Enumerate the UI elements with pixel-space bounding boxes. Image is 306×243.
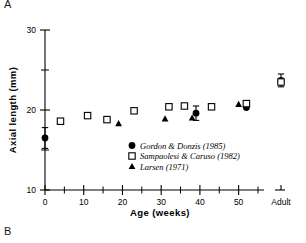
y-axis: 102030 Axial length (mm) [7,25,50,195]
data-point-1-6 [208,104,214,110]
x-tick-label-20: 20 [118,197,128,207]
legend-marker-0 [129,142,136,149]
x-tick-label-50: 50 [234,197,244,207]
y-axis-tick-labels: 102030 [27,25,37,195]
legend-marker-2 [129,163,136,169]
data-point-1-5 [181,103,187,109]
series-1 [57,79,284,125]
chart-svg: 102030 Axial length (mm) 01020304050Adul… [0,0,306,243]
data-point-1-7 [243,100,249,106]
x-tick-label-adult: Adult [271,197,291,207]
data-point-1-1 [84,112,90,118]
data-point-0-0 [42,135,49,142]
data-point-1-4 [166,104,172,110]
x-tick-label-10: 10 [79,197,89,207]
x-axis-tick-labels: 01020304050Adult [43,197,292,207]
legend-label-2: Larsen (1971) [139,162,189,172]
x-tick-label-30: 30 [156,197,166,207]
series-0 [42,74,285,148]
y-tick-label-10: 10 [27,185,37,195]
x-axis-title: Age (weeks) [130,207,190,218]
data-point-2-3 [235,101,242,107]
data-point-2-1 [162,115,169,121]
scatter-chart: 102030 Axial length (mm) 01020304050Adul… [0,0,306,243]
y-tick-label-20: 20 [27,105,37,115]
data-point-1-2 [104,116,110,122]
legend-item-0: Gordon & Donzis (1985) [129,141,226,151]
legend-item-2: Larsen (1971) [129,162,189,172]
data-point-1-8 [278,79,284,85]
data-point-0-1 [193,110,200,117]
legend-label-0: Gordon & Donzis (1985) [140,141,226,151]
legend-label-1: Sampaolesi & Caruso (1982) [140,151,240,161]
data-point-2-0 [115,120,122,126]
legend-marker-1 [129,153,135,159]
data-point-group [42,74,285,148]
y-tick-label-30: 30 [27,25,37,35]
data-point-1-0 [57,118,63,124]
x-tick-label-40: 40 [195,197,205,207]
x-tick-label-0: 0 [43,197,48,207]
data-point-1-3 [131,108,137,114]
chart-legend: Gordon & Donzis (1985)Sampaolesi & Carus… [129,141,240,172]
legend-item-1: Sampaolesi & Caruso (1982) [129,151,240,161]
y-axis-title: Axial length (mm) [7,67,18,154]
x-axis: 01020304050Adult Age (weeks) [43,185,292,218]
